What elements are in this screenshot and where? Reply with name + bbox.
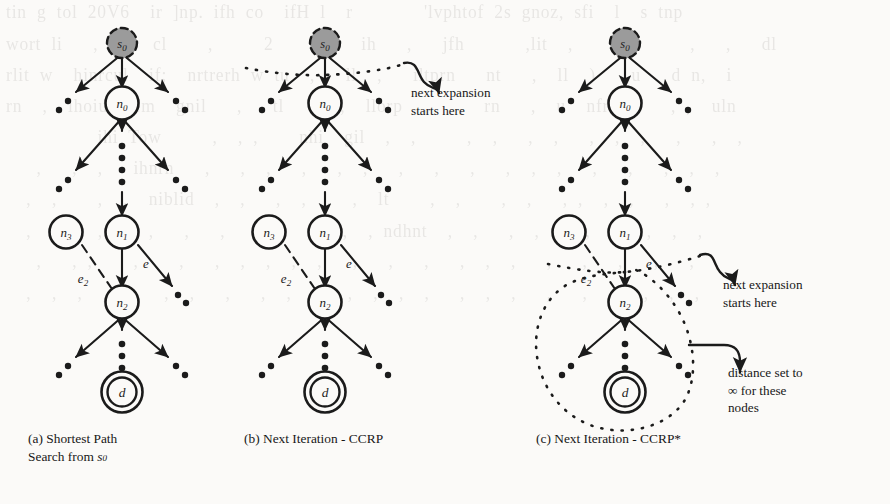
annotation-distance-inf-c: distance set to ∞ for these nodes [728, 364, 803, 417]
edge-label-e2: e2 [78, 271, 89, 288]
vertical-ellipsis-n0-n1 [119, 143, 126, 186]
edge-n0-left [279, 118, 325, 170]
edge-n0-right [625, 118, 671, 170]
annotation-line-1: next expansion [411, 84, 490, 102]
figure-svg: s0 n0 n1 n2 n3 d e e2 s0 n0 n1 n2 n3 d e… [0, 0, 890, 504]
annotation-line-2: starts here [723, 294, 802, 312]
vertical-ellipsis-n0-n1 [622, 143, 629, 186]
edge-n0-right [325, 118, 371, 170]
annotation-line-1: next expansion [723, 276, 802, 294]
edge-label-e2: e2 [281, 271, 292, 288]
caption-panel-b: (b) Next Iteration - CCRP [244, 430, 383, 448]
edge-n2-right [325, 317, 371, 357]
node-label-d: d [622, 385, 629, 400]
ellipsis-dots-n1-right [678, 292, 692, 306]
annotation-line-1: distance set to [728, 364, 803, 382]
caption-a-line2: Search from [28, 449, 97, 464]
edge-s0-right [625, 54, 671, 92]
vertical-ellipsis-n2-d [119, 341, 126, 372]
annotation-line-2: ∞ for these [728, 382, 803, 400]
edge-n2-left [279, 317, 325, 357]
edge-s0-left [579, 54, 625, 92]
edge-n0-left [76, 118, 122, 170]
edge-n0-right [122, 118, 168, 170]
edge-label-e2: e2 [581, 271, 592, 288]
node-label-d: d [119, 385, 126, 400]
edge-label-e: e [646, 256, 652, 271]
edge-label-e: e [346, 256, 352, 271]
annotation-next-expansion-c: next expansion starts here [723, 276, 802, 311]
edge-n2-right [625, 317, 671, 357]
caption-b-text: (b) Next Iteration - CCRP [244, 431, 383, 446]
caption-a-label: (a) [28, 431, 43, 446]
vertical-ellipsis-n0-n1 [322, 143, 329, 186]
figure-three-panel-search-trees: s0 n0 n1 n2 n3 d e e2 s0 n0 n1 n2 n3 d e… [0, 0, 890, 504]
ellipsis-dots-n1-right [378, 292, 392, 306]
edge-s0-right [122, 54, 168, 92]
edge-s0-left [76, 54, 122, 92]
edge-n2-left [76, 317, 122, 357]
node-label-d: d [322, 385, 329, 400]
caption-panel-a: (a) Shortest Path Search from s0 [28, 430, 238, 467]
annotation-line-2: starts here [411, 102, 490, 120]
panel-a-tree [50, 28, 190, 413]
edge-n2-left [579, 317, 625, 357]
caption-a-line1: Shortest Path [46, 431, 117, 446]
caption-panel-c: (c) Next Iteration - CCRP* [536, 430, 681, 448]
vertical-ellipsis-n2-d [322, 341, 329, 372]
caption-c-text: (c) Next Iteration - CCRP* [536, 431, 681, 446]
edge-n0-left [579, 118, 625, 170]
annotation-next-expansion-b: next expansion starts here [411, 84, 490, 119]
annotation-line-3: nodes [728, 399, 803, 417]
edge-n2-right [122, 317, 168, 357]
edge-label-e: e [143, 256, 149, 271]
ellipsis-dots-n1-right [175, 292, 189, 306]
vertical-ellipsis-n2-d [622, 341, 629, 372]
caption-a-sub: 0 [102, 453, 107, 463]
